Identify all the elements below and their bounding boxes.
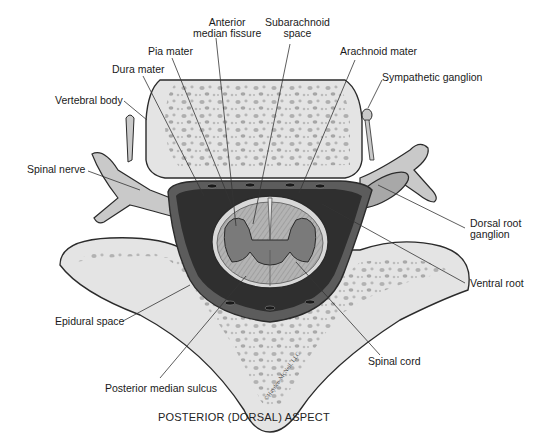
spinal-cord-diagram: Anterior median fissure Subarachnoid spa…	[0, 0, 547, 439]
label-line: Spinal nerve	[27, 163, 85, 175]
anatomy-illustration	[0, 0, 547, 439]
sympathetic-ganglion-shape	[362, 109, 372, 121]
label-line: Sympathetic ganglion	[382, 71, 482, 83]
label-subarachnoid-space: Subarachnoid space	[265, 17, 330, 39]
label-dorsal-root-ganglion: Dorsal root ganglion	[470, 218, 521, 240]
label-dura-mater: Dura mater	[112, 64, 165, 75]
label-line: Ventral root	[470, 277, 524, 289]
label-line: Dura mater	[112, 63, 165, 75]
label-epidural-space: Epidural space	[55, 316, 124, 327]
label-ventral-root: Ventral root	[470, 278, 524, 289]
label-pia-mater: Pia mater	[148, 46, 193, 57]
label-posterior-median-sulcus: Posterior median sulcus	[105, 383, 217, 394]
label-line: Spinal cord	[368, 355, 421, 367]
label-arachnoid-mater: Arachnoid mater	[340, 46, 417, 57]
label-line: Arachnoid mater	[340, 45, 417, 57]
label-sympathetic-ganglion: Sympathetic ganglion	[382, 72, 482, 83]
label-spinal-cord: Spinal cord	[368, 356, 421, 367]
spinal-cord-shape	[212, 196, 328, 288]
label-anterior-median-fissure: Anterior median fissure	[193, 17, 261, 39]
label-line: ganglion	[470, 229, 521, 240]
label-line: Posterior median sulcus	[105, 382, 217, 394]
label-spinal-nerve: Spinal nerve	[27, 164, 85, 175]
label-line: median fissure	[193, 28, 261, 39]
label-line: Epidural space	[55, 315, 124, 327]
label-line: Pia mater	[148, 45, 193, 57]
label-vertebral-body: Vertebral body	[55, 95, 123, 106]
vertebral-body-shape	[146, 80, 362, 178]
diagram-caption: POSTERIOR (DORSAL) ASPECT	[158, 411, 330, 423]
label-line: Vertebral body	[55, 94, 123, 106]
label-line: space	[265, 28, 330, 39]
